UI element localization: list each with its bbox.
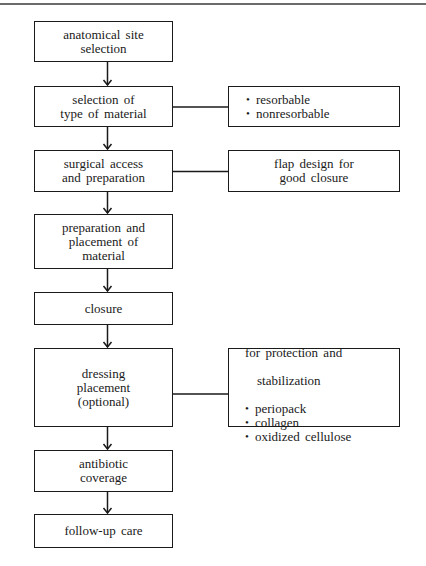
step-label: follow-up care [64, 524, 142, 538]
step-surgical-access: surgical access and preparation [34, 150, 173, 192]
note-text: flap design for good closure [274, 157, 354, 185]
note-flap-design: flap design for good closure [228, 150, 400, 192]
note-dressing-materials: for protection and stabilization periopa… [228, 348, 400, 427]
step-label: closure [85, 302, 123, 316]
step-placement-of-material: preparation and placement of material [34, 214, 173, 269]
step-antibiotic-coverage: antibiotic coverage [34, 450, 173, 492]
note-content: for protection and stabilization periopa… [245, 332, 351, 444]
note-material-types: resorbable nonresorbable [228, 86, 400, 127]
step-follow-up-care: follow-up care [34, 514, 173, 548]
note-lead-line: for protection and [245, 346, 351, 360]
list-item: resorbable [246, 93, 330, 107]
note-lead: for protection and stabilization [245, 332, 351, 402]
step-closure: closure [34, 292, 173, 325]
step-label: preparation and placement of material [62, 221, 145, 263]
step-selection-of-material: selection of type of material [34, 86, 173, 127]
list-item: oxidized cellulose [245, 430, 351, 444]
material-type-list: resorbable nonresorbable [246, 93, 330, 121]
step-label: dressing placement (optional) [77, 367, 130, 409]
list-item: nonresorbable [246, 107, 330, 121]
step-label: anatomical site selection [63, 28, 143, 56]
step-dressing-placement: dressing placement (optional) [34, 348, 173, 427]
step-label: surgical access and preparation [62, 157, 145, 185]
note-lead-line: stabilization [245, 374, 351, 388]
step-anatomical-site-selection: anatomical site selection [34, 21, 173, 62]
dressing-material-list: periopack collagen oxidized cellulose [245, 402, 351, 444]
list-item: periopack [245, 402, 351, 416]
step-label: selection of type of material [60, 93, 146, 121]
step-label: antibiotic coverage [79, 457, 128, 485]
list-item: collagen [245, 416, 351, 430]
